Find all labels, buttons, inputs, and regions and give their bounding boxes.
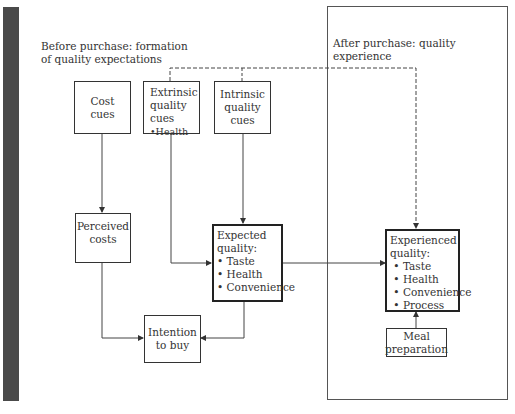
bullet-item: Taste xyxy=(403,260,431,272)
node-label: Experienced xyxy=(390,234,455,247)
node-intrinsic-quality-cues: Intrinsic quality cues xyxy=(214,81,271,134)
bullet-item: Convenience xyxy=(227,281,295,293)
bullet-icon: • xyxy=(393,273,399,285)
node-cost-cues: Cost cues xyxy=(74,81,131,134)
bullet-icon: • xyxy=(217,255,223,267)
node-label: to buy xyxy=(156,339,189,352)
node-expected-quality: Expected quality: • Taste • Health • Con… xyxy=(212,224,283,302)
bullet-item: Process xyxy=(403,299,444,311)
bullet-icon: • xyxy=(217,281,223,293)
bullet-item: Health xyxy=(156,126,189,137)
node-label: quality: xyxy=(217,242,278,255)
edge-perceived-intention xyxy=(102,262,143,338)
bullet-item: Taste xyxy=(227,255,255,267)
node-intention-to-buy: Intention to buy xyxy=(144,315,201,363)
node-label: preparation xyxy=(385,343,448,356)
edge-expected-intention xyxy=(201,301,244,338)
node-label: Meal xyxy=(403,330,430,343)
bullet-icon: • xyxy=(393,260,399,272)
node-label: Intrinsic xyxy=(220,88,265,101)
node-label: costs xyxy=(89,233,116,246)
bullet-item: Health xyxy=(227,268,263,280)
edge-extrinsic-expected xyxy=(171,133,211,263)
bullet-icon: • xyxy=(393,299,399,311)
node-label: Perceived xyxy=(77,220,129,233)
node-label: cues xyxy=(230,114,254,127)
node-label: Extrinsic xyxy=(150,86,196,99)
bullet-icon: • xyxy=(217,268,223,280)
node-label: quality xyxy=(224,101,261,114)
bullet-icon: • xyxy=(393,286,399,298)
node-label: cues xyxy=(90,108,114,121)
node-meal-preparation: Meal preparation xyxy=(386,328,447,357)
node-label: quality: xyxy=(390,247,455,260)
node-label: cues xyxy=(150,112,196,125)
node-perceived-costs: Perceived costs xyxy=(75,213,131,263)
node-extrinsic-quality-cues: Extrinsic quality cues •Health xyxy=(143,81,200,134)
bullet-item: Convenience xyxy=(403,286,471,298)
node-label: Cost xyxy=(91,95,115,108)
node-label: Intention xyxy=(148,326,197,339)
node-label: quality xyxy=(150,99,196,112)
node-label: Expected xyxy=(217,229,278,242)
node-experienced-quality: Experienced quality: • Taste • Health • … xyxy=(385,229,460,312)
dashed-edge-extrinsic-experienced xyxy=(170,68,416,228)
bullet-item: Health xyxy=(403,273,439,285)
